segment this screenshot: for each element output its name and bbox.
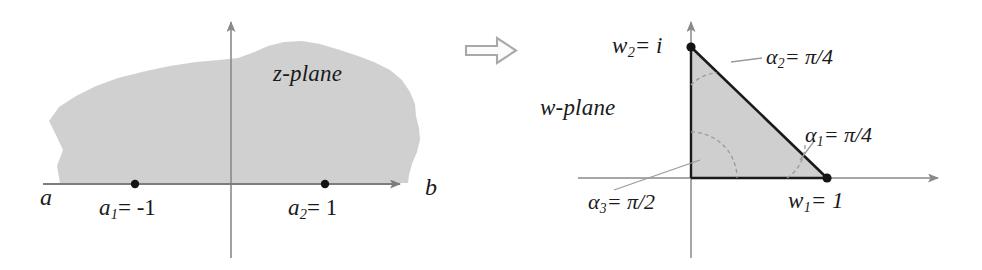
vertex-w1-label: w1= 1 [788,189,844,215]
leader-line-alpha2 [731,58,762,62]
point-a1-subscript: 1 [111,206,118,222]
vertex-w1-subscript: 1 [804,199,811,215]
vertex-w1-base: w [788,188,803,213]
angle-alpha1-subscript: 1 [817,134,824,149]
point-a2-value: = 1 [307,195,337,220]
vertex-w2-value: = i [635,33,663,58]
angle-alpha3-subscript: 3 [600,201,607,216]
point-a2-subscript: 2 [300,206,307,222]
point-a2-base: a [288,195,300,220]
w-plane-label: w-plane [540,96,616,119]
angle-alpha2-value: = π/4 [785,44,833,69]
point-a1-marker [131,180,139,188]
schwarz-christoffel-figure: z-plane a b a1= -1 a2= 1 w-plane w2= i w… [0,0,982,270]
angle-alpha3-base: α [588,189,600,214]
point-a1-label: a1= -1 [99,196,156,222]
angle-alpha3-value: = π/2 [607,189,655,214]
z-axis-left-letter: a [40,185,52,209]
vertex-w2-label: w2= i [612,34,662,60]
z-plane-region [49,41,420,183]
point-a2-marker [321,180,329,188]
vertex-w1-value: = 1 [811,188,844,213]
angle-alpha1-value: = π/4 [824,122,872,147]
point-w2-marker [686,42,695,51]
angle-alpha3-label: α3= π/2 [588,191,655,216]
leader-line-alpha3 [614,160,700,190]
angle-alpha2-label: α2= π/4 [766,46,833,71]
angle-alpha1-base: α [805,122,817,147]
angle-alpha1-label: α1= π/4 [805,124,872,149]
z-plane-label: z-plane [273,62,342,85]
angle-alpha2-base: α [766,44,778,69]
point-a1-base: a [99,195,111,220]
point-a1-value: = -1 [118,195,156,220]
point-w1-marker [822,173,831,182]
z-axis-right-letter: b [425,175,437,199]
angle-alpha2-subscript: 2 [778,56,785,71]
vertex-w2-base: w [612,33,627,58]
point-a2-label: a2= 1 [288,196,337,222]
right-block-arrow-icon [466,38,516,63]
z-plane-group [43,22,420,258]
vertex-w2-subscript: 2 [628,44,635,60]
